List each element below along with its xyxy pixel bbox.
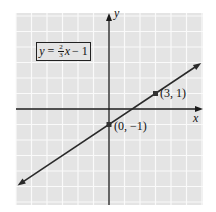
eq-slope-fraction: 2 3 [58, 44, 64, 59]
eq-slope-den: 3 [59, 52, 63, 59]
x-axis-label: x [193, 111, 198, 126]
point-3-1 [153, 91, 158, 96]
eq-lhs: y [39, 44, 44, 59]
eq-equals: = [47, 44, 54, 59]
point-label-3-1: (3, 1) [160, 86, 186, 101]
eq-var: x [65, 44, 70, 59]
point-label-0-neg1: (0, −1) [114, 119, 147, 134]
point-0-neg1 [107, 122, 112, 127]
y-axis-label: y [114, 6, 119, 21]
coordinate-plane [0, 0, 216, 212]
eq-rest: − 1 [72, 44, 88, 59]
equation-box: y = 2 3 x − 1 [36, 42, 91, 61]
